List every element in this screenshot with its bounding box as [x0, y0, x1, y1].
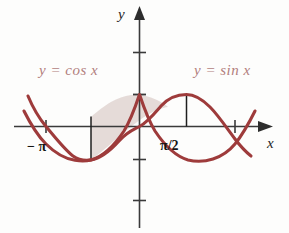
x-tick-label-neg-pi: − π	[27, 140, 46, 154]
plot-canvas	[0, 0, 289, 233]
math-graph-figure: y x y = cos x y = sin x − π π/2	[0, 0, 289, 233]
shaded-region	[91, 95, 168, 160]
y-axis-arrowhead	[134, 6, 145, 20]
cosine-curve-label: y = cos x	[39, 63, 98, 78]
x-axis-arrowhead	[258, 121, 273, 132]
x-tick-label-pi-half: π/2	[160, 139, 179, 153]
y-axis-label: y	[118, 7, 125, 22]
x-axis-label: x	[267, 136, 274, 151]
sine-curve-label: y = sin x	[194, 63, 251, 78]
